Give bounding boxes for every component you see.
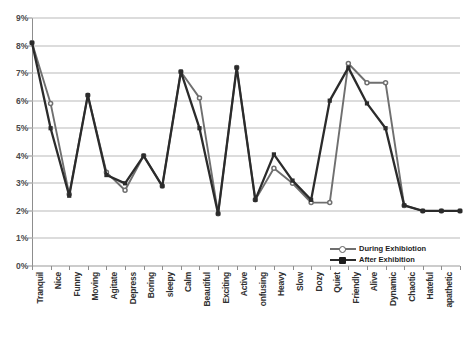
x-tick-mark [32,266,33,270]
x-tick-label: apathetic [445,272,454,308]
x-tick-mark [144,266,145,270]
data-point-marker [402,203,406,207]
x-tick-label: Dozy [315,272,324,292]
x-tick-mark [88,266,89,270]
data-point-marker [272,152,276,156]
y-tick-label: 6% [16,96,28,106]
legend-marker-during-icon [330,244,356,253]
legend-item-during: During Exhibiotion [330,243,463,254]
figure-caption [18,328,448,339]
x-tick-label: Beautiful [203,272,212,307]
x-tick-mark [237,266,238,270]
y-tick-label: 8% [16,41,28,51]
data-point-marker [253,198,257,202]
data-point-marker [384,81,388,85]
x-tick-mark [125,266,126,270]
x-tick-label: Hateful [426,272,435,299]
data-point-marker [49,101,53,105]
x-tick-mark [162,266,163,270]
y-tick-label: 1% [16,233,28,243]
x-tick-label: Depress [129,272,138,304]
data-point-marker [160,184,164,188]
data-point-marker [383,126,387,130]
legend-label-during: During Exhibiotion [359,244,426,254]
x-tick-mark [181,266,182,270]
x-tick-label: Exciting [222,272,231,303]
x-tick-label: Moving [91,272,100,301]
y-tick-label: 0% [16,261,28,271]
x-tick-label: Boring [147,272,156,298]
x-tick-label: Tranquil [36,272,45,303]
x-tick-label: onfusing [259,272,268,306]
data-point-marker [197,96,201,100]
x-tick-label: Quiet [333,272,342,293]
data-point-marker [346,66,350,70]
data-point-marker [142,154,146,158]
x-tick-mark [69,266,70,270]
series-line [32,43,460,214]
x-tick-label: Active [240,272,249,296]
x-tick-mark [218,266,219,270]
x-tick-mark [106,266,107,270]
data-point-marker [123,188,127,192]
data-point-marker [309,198,313,202]
data-point-marker [272,166,276,170]
chart-legend: During Exhibiotion After Exhibition [330,243,463,265]
x-tick-mark [460,266,461,270]
x-tick-mark [274,266,275,270]
x-tick-label: Calm [184,272,193,292]
legend-marker-after-icon [330,255,356,264]
data-point-marker [30,41,34,45]
legend-label-after: After Exhibition [359,255,415,265]
data-point-marker [365,81,369,85]
data-point-marker [290,178,294,182]
data-point-marker [421,209,425,213]
data-point-marker [216,212,220,216]
x-tick-mark [441,266,442,270]
x-tick-label: Dynamic [389,272,398,306]
x-axis-labels: TranquilNiceFunnyMovingAgitateDepressBor… [32,272,460,328]
x-tick-mark [348,266,349,270]
data-point-marker [179,70,183,74]
x-tick-label: Chaotic [408,272,417,302]
y-tick-label: 4% [16,151,28,161]
x-tick-mark [330,266,331,270]
y-tick-label: 5% [16,123,28,133]
x-tick-label: Alive [370,272,379,291]
x-tick-mark [423,266,424,270]
x-tick-label: Friendly [352,272,361,303]
x-tick-mark [404,266,405,270]
data-point-marker [365,101,369,105]
figure: 0%1%2%3%4%5%6%7%8%9% TranquilNiceFunnyMo… [0,0,463,339]
x-tick-label: Agitate [110,272,119,299]
data-point-marker [328,201,332,205]
x-tick-label: Funny [73,272,82,297]
y-tick-label: 3% [16,178,28,188]
data-point-marker [86,93,90,97]
x-tick-mark [367,266,368,270]
data-point-marker [439,209,443,213]
x-tick-mark [386,266,387,270]
x-tick-label: Slow [296,272,305,291]
data-point-marker [104,173,108,177]
x-tick-label: Nice [54,272,63,289]
data-point-marker [123,181,127,185]
data-point-marker [328,99,332,103]
data-point-marker [49,126,53,130]
y-tick-label: 9% [16,13,28,23]
data-point-marker [197,126,201,130]
y-tick-label: 2% [16,206,28,216]
y-tick-label: 7% [16,68,28,78]
x-tick-label: Heavy [277,272,286,296]
x-tick-mark [293,266,294,270]
data-point-marker [346,61,350,65]
x-tick-mark [51,266,52,270]
data-point-marker [67,194,71,198]
x-tick-mark [199,266,200,270]
x-tick-mark [255,266,256,270]
data-point-marker [235,66,239,70]
x-tick-label: sleepy [166,272,175,297]
chart-plot-area: 0%1%2%3%4%5%6%7%8%9% [32,18,460,266]
series-lines [32,18,460,266]
x-tick-mark [311,266,312,270]
